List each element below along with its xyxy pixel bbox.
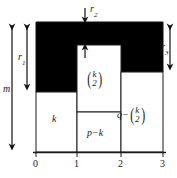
label-region-p-minus-k: p−k (87, 128, 103, 138)
label-r3: r3 (161, 42, 168, 55)
right-paren-glyph: ) (98, 72, 102, 87)
label-region-k: k (52, 114, 56, 124)
label-region-binom-k-2: ( k 2 ) (86, 70, 103, 88)
x-axis (33, 152, 166, 157)
left-paren-glyph: ( (87, 72, 91, 87)
step-histogram-diagram: m r1 r2 r3 k ( k 2 ) p−k q− ( k 2 (0, 0, 177, 178)
left-paren-glyph: ( (130, 108, 134, 123)
label-r1: r1 (18, 52, 25, 65)
label-region-q-minus-binom: q− ( k 2 ) (117, 105, 146, 124)
axis-tick-label-0: 0 (33, 159, 38, 169)
axis-tick-label-1: 1 (74, 159, 79, 169)
label-m: m (3, 84, 10, 94)
q-minus-prefix: q− (117, 110, 129, 120)
label-r2: r2 (90, 4, 97, 17)
diagram-canvas (0, 0, 177, 178)
axis-tick-label-2: 2 (118, 159, 123, 169)
axis-tick-label-3: 3 (160, 159, 165, 169)
binom-bottom: 2 (135, 115, 140, 124)
right-paren-glyph: ) (141, 108, 145, 123)
binom-bottom: 2 (92, 79, 97, 88)
